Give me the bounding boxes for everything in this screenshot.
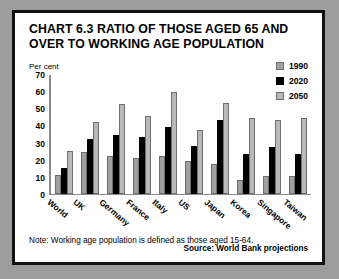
y-tick-60: 60 [36, 87, 45, 97]
bar-group [185, 75, 204, 194]
bar-group [211, 75, 230, 194]
y-tick-10: 10 [36, 173, 45, 183]
y-tick-20: 20 [36, 156, 45, 166]
bar-group [237, 75, 256, 194]
x-tick-label: US [177, 197, 192, 212]
chart-source: Source: World Bank projections [184, 244, 309, 253]
bar [301, 118, 307, 193]
bar-group [133, 75, 152, 194]
x-tick-label: Italy [150, 197, 169, 215]
bar-group [289, 75, 308, 194]
x-tick-label: Japan [203, 197, 228, 220]
x-tick-label: UK [72, 197, 88, 212]
x-axis-line [49, 194, 311, 196]
bar-group [55, 75, 74, 194]
bar [119, 104, 125, 193]
bar-group [81, 75, 100, 194]
bar [93, 122, 99, 194]
bar [197, 130, 203, 193]
legend-item: 1990 [276, 61, 308, 71]
x-tick-label: World [46, 197, 70, 220]
chart-panel: CHART 6.3 RATIO OF THOSE AGED 65 AND OVE… [12, 10, 325, 265]
y-tick-0: 0 [40, 190, 45, 200]
y-tick-40: 40 [36, 121, 45, 131]
bar [145, 116, 151, 193]
axes: 010203040506070 [49, 75, 311, 195]
bar [275, 120, 281, 194]
legend-label: 1990 [289, 61, 308, 71]
bar-group [107, 75, 126, 194]
bar-group [263, 75, 282, 194]
y-tick-50: 50 [36, 104, 45, 114]
bar [249, 118, 255, 193]
plot-area: Per cent 199020202050 010203040506070 Wo… [15, 13, 322, 262]
bar [67, 151, 73, 194]
y-tick-30: 30 [36, 139, 45, 149]
y-tick-70: 70 [36, 70, 45, 80]
x-tick-labels: WorldUKGermanyFranceItalyUSJapanKoreaSin… [51, 197, 313, 241]
legend-swatch-icon [276, 62, 284, 70]
bar-group [159, 75, 178, 194]
bar [171, 92, 177, 193]
x-tick-label: Korea [229, 197, 254, 220]
bar-groups [51, 75, 311, 194]
bar [223, 103, 229, 194]
